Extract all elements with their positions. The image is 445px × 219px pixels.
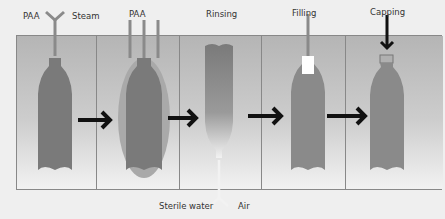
label-steam: Steam bbox=[72, 11, 99, 21]
label-air: Air bbox=[238, 201, 250, 211]
label-paa: PAA bbox=[23, 11, 39, 21]
label-sterile-water: Sterile water bbox=[159, 201, 213, 211]
process-diagram bbox=[0, 0, 445, 219]
paa-nozzles-icon bbox=[130, 20, 158, 58]
label-rinsing: Rinsing bbox=[206, 9, 237, 19]
label-filling: Filling bbox=[292, 8, 317, 18]
rinse-inlet-icon bbox=[210, 160, 228, 206]
bottle-icon bbox=[126, 58, 162, 170]
bottle-icon bbox=[38, 58, 72, 170]
label-capping: Capping bbox=[370, 7, 405, 17]
capped-bottle-icon bbox=[370, 63, 404, 170]
inverted-bottle-icon bbox=[205, 44, 233, 158]
capping-arrow-icon bbox=[381, 15, 393, 48]
cap-icon bbox=[380, 55, 393, 63]
label-paa-2: PAA bbox=[129, 9, 145, 19]
y-inlet-icon bbox=[46, 12, 64, 56]
